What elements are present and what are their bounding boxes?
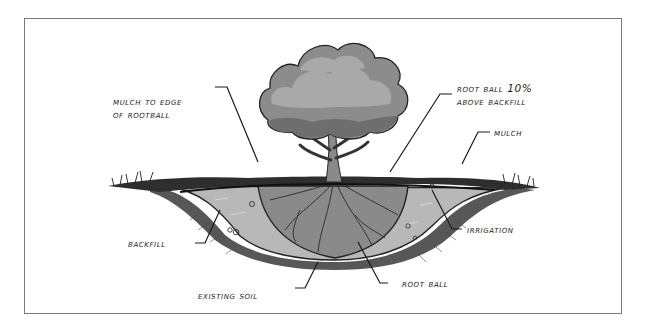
label-mulch-to-edge: Mulch to Edge of Rootball bbox=[113, 95, 182, 121]
label-root-ball: Root Ball bbox=[402, 277, 448, 290]
label-backfill: Backfill bbox=[128, 237, 166, 250]
tree-planting-illustration bbox=[0, 0, 661, 332]
label-rootball-above-line1: Root Ball 10% bbox=[457, 82, 532, 95]
label-rootball-above-line2: Above Backfill bbox=[457, 95, 532, 108]
label-rootball-above-backfill: Root Ball 10% Above Backfill bbox=[457, 82, 532, 108]
label-mulch-to-edge-line2: of Rootball bbox=[113, 108, 182, 121]
label-existing-soil: Existing Soil bbox=[198, 289, 258, 302]
label-irrigation: Irrigation bbox=[467, 223, 514, 236]
tree-canopy bbox=[260, 44, 408, 140]
label-mulch-to-edge-line1: Mulch to Edge bbox=[113, 95, 182, 108]
label-mulch: Mulch bbox=[494, 126, 522, 139]
